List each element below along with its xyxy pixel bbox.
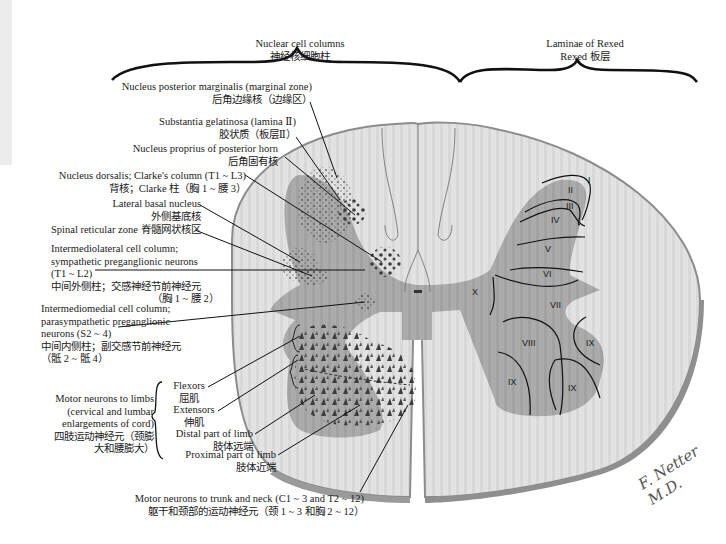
label-motor-neurons-trunk-neck: Motor neurons to trunk and neck (C1 ~ 3 … [120, 493, 364, 518]
label-substantia-gelatinosa: Substantia gelatinosa (lamina Ⅱ)胶状质（板层Ⅱ） [120, 116, 296, 141]
label-nucleus-dorsalis: Nucleus dorsalis; Clarke's column (T1 ~ … [30, 170, 246, 195]
lamina-vi-label: VI [543, 268, 552, 281]
label-flexors: Flexors屈肌 [170, 380, 208, 405]
lamina-v-label: V [545, 243, 551, 256]
nuclear-columns-header: Nuclear cell columns 神经核细胞柱 [220, 38, 380, 63]
label-intermediolateral-column: Intermediolateral cell column; sympathet… [51, 243, 219, 306]
lamina-ix-lateral-label: IX [586, 337, 595, 350]
label-nucleus-proprius: Nucleus proprius of posterior horn后角固有核 [100, 143, 278, 168]
lamina-iv-label: IV [551, 214, 560, 227]
lamina-viii-label: VIII [522, 337, 536, 350]
laminae-brace [460, 60, 697, 82]
header-en: Laminae of Rexed [525, 38, 645, 51]
lamina-numerals: I [588, 175, 591, 185]
header-zh: Rexed 板层 [525, 51, 645, 64]
label-extensors: Extensors伸肌 [170, 404, 218, 429]
svg-text:I: I [588, 175, 591, 185]
lamina-x-label: X [472, 286, 478, 299]
header-en: Nuclear cell columns [220, 38, 380, 51]
lamina-vii-label: VII [550, 299, 561, 312]
lamina-ii-label: II [568, 184, 573, 197]
lamina-iii-label: III [566, 200, 574, 213]
lamina-ix-ventral-label: IX [568, 382, 577, 395]
label-lateral-basal-nucleus: Lateral basal nucleus外侧基底核 [80, 198, 201, 223]
header-zh: 神经核细胞柱 [220, 51, 380, 64]
laminae-header: Laminae of Rexed Rexed 板层 [525, 38, 645, 63]
label-nucleus-posterior-marginalis: Nucleus posterior marginalis (marginal z… [100, 81, 312, 106]
label-motor-neurons-limbs: Motor neurons to limbs (cervical and lum… [40, 393, 154, 456]
lamina-ix-medial-label: IX [508, 376, 517, 389]
label-spinal-reticular-zone: Spinal reticular zone 脊髓网状核区 [51, 224, 201, 237]
label-intermediomedial-column: Intermediomedial cell column; parasympat… [41, 303, 181, 366]
label-proximal-limb: Proximal part of limb肢体近端 [160, 449, 276, 474]
central-canal [414, 290, 422, 293]
